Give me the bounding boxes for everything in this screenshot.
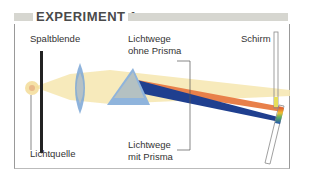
label-lichtquelle: Lichtquelle (30, 148, 75, 160)
label-ohne-prisma-2: ohne Prisma (128, 45, 181, 57)
label-mit-prisma-1: Lichtwege (128, 139, 171, 151)
ohne-prisma-pointer (177, 61, 190, 150)
label-ohne-prisma-1: Lichtwege (128, 33, 171, 45)
slit-aperture (40, 51, 43, 153)
label-schirm: Schirm (241, 33, 271, 45)
label-mit-prisma-2: mit Prisma (128, 151, 173, 163)
label-spaltblende: Spaltblende (30, 33, 80, 45)
